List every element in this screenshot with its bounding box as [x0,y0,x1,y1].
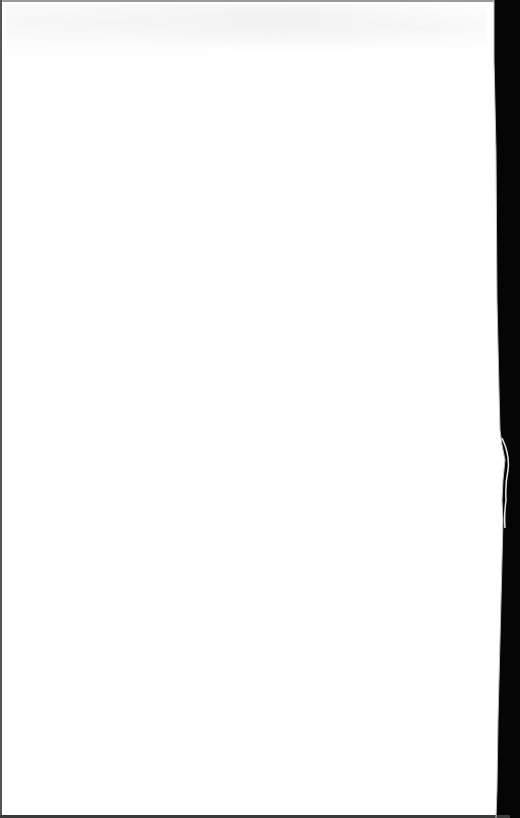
paper-body [0,0,505,818]
paper-shape [0,0,520,818]
scanned-document [0,0,520,818]
left-edge-line [0,0,2,818]
top-edge-shadow [0,0,494,2]
paper-sheet [0,0,520,818]
